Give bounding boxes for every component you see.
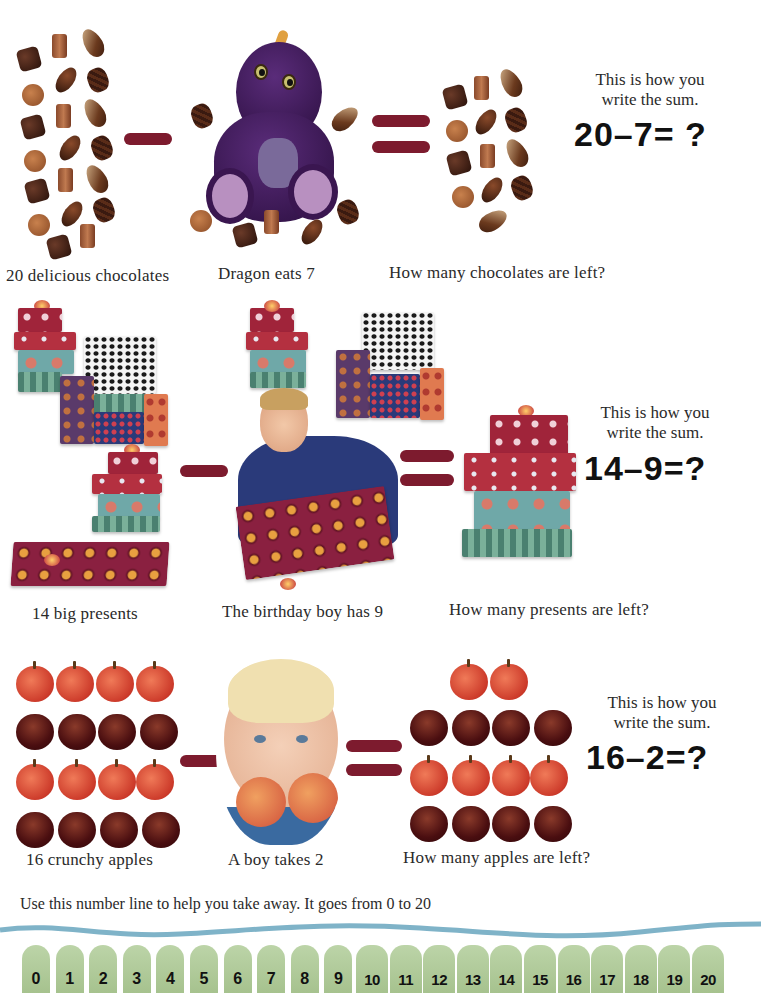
presents-pile-14 <box>10 298 180 598</box>
birthday-boy <box>180 298 450 598</box>
number-tab-8: 8 <box>291 945 319 993</box>
apples-grid-16 <box>14 662 184 852</box>
sum-hint-line2: write the sum. <box>585 423 725 443</box>
sum-hint: This is how you write the sum. <box>592 693 732 733</box>
number-line: 01234567891011121314151617181920 <box>0 945 761 993</box>
sum-hint-line1: This is how you <box>592 693 732 713</box>
sum-equation: 16–2=? <box>586 738 708 777</box>
number-line-intro: Use this number line to help you take aw… <box>20 895 431 913</box>
number-tab-5: 5 <box>190 945 218 993</box>
boy-with-apples <box>216 657 346 845</box>
dragon-toy <box>186 28 366 258</box>
take-caption: The birthday boy has 9 <box>222 602 383 622</box>
number-tab-9: 9 <box>324 945 352 993</box>
number-tab-20: 20 <box>692 945 724 993</box>
sum-hint-line2: write the sum. <box>592 713 732 733</box>
number-tab-1: 1 <box>56 945 84 993</box>
number-tab-7: 7 <box>257 945 285 993</box>
take-caption: Dragon eats 7 <box>218 264 315 284</box>
number-tab-19: 19 <box>658 945 690 993</box>
apples-grid-14 <box>410 660 580 850</box>
number-tab-12: 12 <box>423 945 455 993</box>
sum-hint: This is how you write the sum. <box>585 403 725 443</box>
number-tab-0: 0 <box>22 945 50 993</box>
number-tab-6: 6 <box>224 945 252 993</box>
equals-sign <box>372 115 430 159</box>
number-tab-13: 13 <box>457 945 489 993</box>
result-caption: How many apples are left? <box>403 848 590 868</box>
number-tab-16: 16 <box>558 945 590 993</box>
number-tab-18: 18 <box>625 945 657 993</box>
minus-sign <box>124 133 172 145</box>
start-caption: 20 delicious chocolates <box>6 266 169 286</box>
sum-equation: 14–9=? <box>584 449 706 488</box>
chocolates-pile-20 <box>14 28 124 263</box>
start-caption: 14 big presents <box>32 604 138 624</box>
chocolates-pile-13 <box>440 68 540 238</box>
number-tab-11: 11 <box>390 945 422 993</box>
number-tab-17: 17 <box>591 945 623 993</box>
result-caption: How many chocolates are left? <box>389 263 605 283</box>
equals-sign <box>400 450 454 490</box>
number-tab-2: 2 <box>89 945 117 993</box>
number-tab-15: 15 <box>524 945 556 993</box>
sum-equation: 20–7= ? <box>574 115 707 154</box>
sum-hint-line1: This is how you <box>580 70 720 90</box>
start-caption: 16 crunchy apples <box>26 850 153 870</box>
number-tab-10: 10 <box>356 945 388 993</box>
sum-hint-line2: write the sum. <box>580 90 720 110</box>
number-tab-14: 14 <box>490 945 522 993</box>
number-tab-4: 4 <box>156 945 184 993</box>
number-tab-3: 3 <box>123 945 151 993</box>
sum-hint: This is how you write the sum. <box>580 70 720 110</box>
sum-hint-line1: This is how you <box>585 403 725 423</box>
wavy-line <box>0 918 761 942</box>
presents-pile-5 <box>462 405 582 565</box>
take-caption: A boy takes 2 <box>228 850 324 870</box>
equals-sign <box>346 740 402 780</box>
result-caption: How many presents are left? <box>449 600 649 620</box>
